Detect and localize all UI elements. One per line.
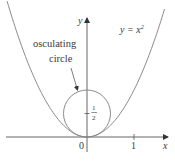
osculating-circle-diagram: y y = x2 osculating circle 1 2 0 1 x	[0, 0, 175, 162]
x-tick-label-1: 1	[131, 140, 136, 151]
origin-label: 0	[79, 140, 84, 151]
parabola-curve	[7, 1, 164, 137]
equation-label: y = x2	[119, 23, 145, 35]
circle-label: circle	[49, 53, 73, 64]
equation-exponent: 2	[141, 23, 145, 30]
label-pointer-arrow	[71, 68, 78, 90]
osculating-label: osculating	[33, 38, 77, 49]
equation-main: y = x	[119, 24, 141, 35]
half-denominator: 2	[92, 114, 96, 122]
half-numerator: 1	[92, 104, 96, 112]
y-axis-label: y	[77, 15, 83, 26]
x-axis-label: x	[162, 140, 168, 151]
